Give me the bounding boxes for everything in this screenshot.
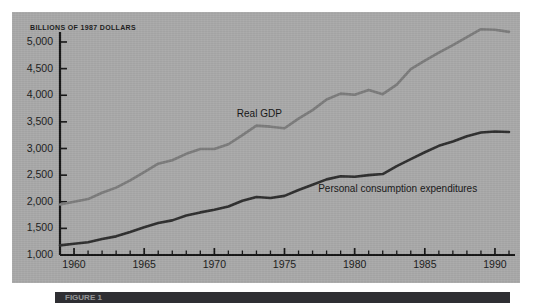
x-axis-tick-label: 1980 xyxy=(335,258,375,270)
x-axis-tick-label: 1975 xyxy=(265,258,305,270)
series-label-personal-consumption-expenditures: Personal consumption expenditures xyxy=(318,183,477,194)
y-axis-tick-label: 4,500 xyxy=(19,62,53,74)
y-axis-tick-label: 3,000 xyxy=(19,142,53,154)
x-axis-tick-label: 1965 xyxy=(124,258,164,270)
series-label-real-gdp: Real GDP xyxy=(237,108,282,119)
y-axis-tick-label: 2,500 xyxy=(19,168,53,180)
y-axis-tick-label: 1,000 xyxy=(19,248,53,260)
y-axis-tick-label: 1,500 xyxy=(19,221,53,233)
series-lines xyxy=(60,29,509,245)
y-axis-tick-label: 5,000 xyxy=(19,35,53,47)
figure-caption-bar: FIGURE 1 xyxy=(55,292,510,303)
tick-marks xyxy=(60,42,509,255)
line-chart-plot xyxy=(12,12,520,283)
chart-panel: BILLIONS OF 1987 DOLLARS 1,0001,5002,000… xyxy=(12,12,520,283)
x-axis-tick-label: 1960 xyxy=(54,258,94,270)
figure-caption-text: FIGURE 1 xyxy=(65,293,102,302)
y-axis-tick-label: 2,000 xyxy=(19,195,53,207)
figure-container: BILLIONS OF 1987 DOLLARS 1,0001,5002,000… xyxy=(0,0,533,303)
x-axis-tick-label: 1990 xyxy=(475,258,515,270)
y-axis-tick-label: 4,000 xyxy=(19,88,53,100)
y-axis-tick-label: 3,500 xyxy=(19,115,53,127)
x-axis-tick-label: 1985 xyxy=(405,258,445,270)
x-axis-tick-label: 1970 xyxy=(194,258,234,270)
